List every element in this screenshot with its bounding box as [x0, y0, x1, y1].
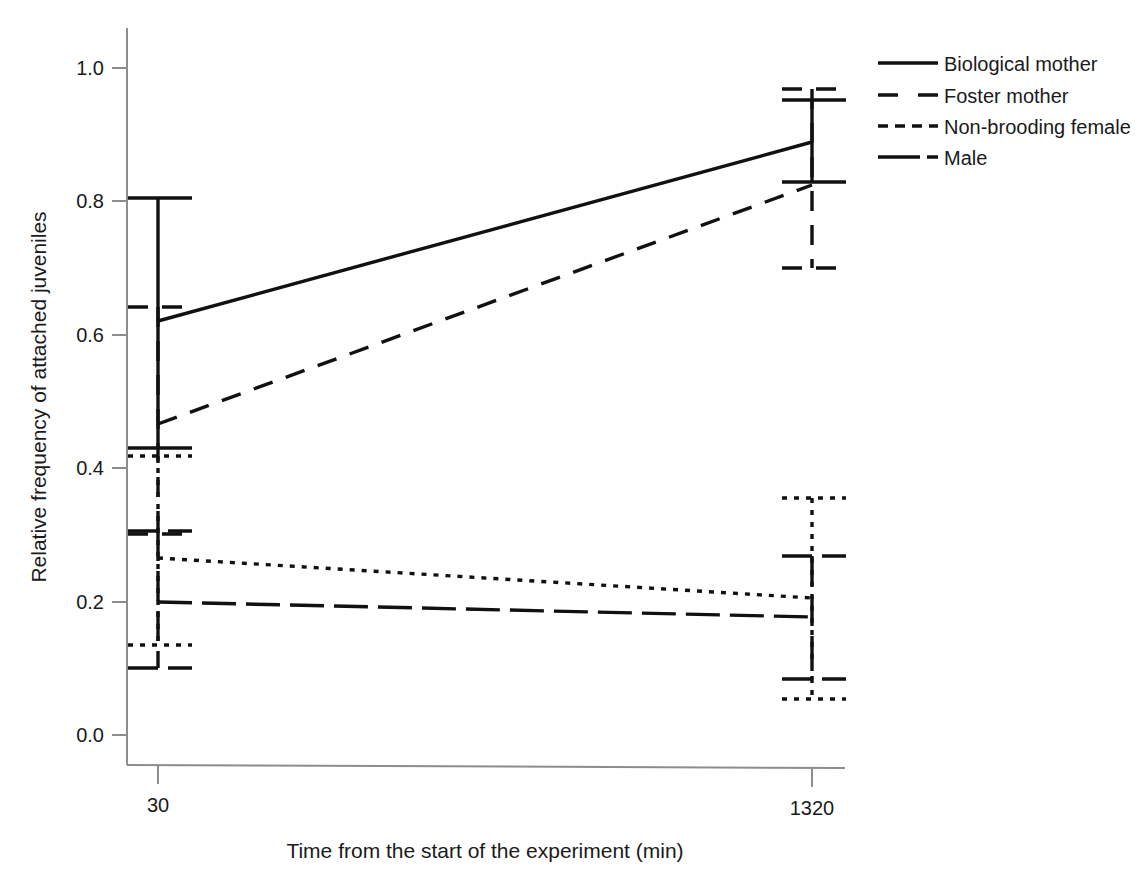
legend-entry-biological-mother: Biological mother — [878, 53, 1098, 75]
y-tick-label-0.6: 0.6 — [76, 324, 104, 346]
errorbar-biological-mother-30 — [128, 198, 192, 448]
legend-label-male: Male — [944, 147, 987, 169]
errorbar-foster-mother-30 — [128, 307, 192, 534]
series-line-foster-mother — [158, 185, 812, 424]
y-axis-ticks — [112, 68, 127, 735]
x-axis-ticks — [158, 766, 812, 787]
series-line-non-brooding-female — [158, 558, 812, 598]
x-axis-spine — [127, 765, 845, 768]
line-chart-svg: 1.0 0.8 0.6 0.4 0.2 0.0 30 1320 Time fro… — [0, 0, 1140, 877]
chart-figure: 1.0 0.8 0.6 0.4 0.2 0.0 30 1320 Time fro… — [0, 0, 1140, 877]
legend-entry-non-brooding-female: Non-brooding female — [878, 116, 1131, 138]
y-tick-label-0.8: 0.8 — [76, 190, 104, 212]
series-foster-mother — [128, 89, 846, 534]
legend-entry-male: Male — [878, 147, 987, 169]
legend-label-biological-mother: Biological mother — [944, 53, 1098, 75]
x-axis-tick-labels: 30 1320 — [147, 794, 834, 819]
y-axis-tick-labels: 1.0 0.8 0.6 0.4 0.2 0.0 — [76, 57, 104, 746]
errorbar-biological-mother-1320 — [782, 100, 846, 182]
x-tick-label-30: 30 — [147, 794, 169, 816]
chart-legend: Biological mother Foster mother Non-broo… — [878, 53, 1131, 169]
errorbar-foster-mother-1320 — [782, 89, 846, 268]
series-male — [128, 531, 846, 679]
y-axis-title: Relative frequency of attached juveniles — [27, 211, 50, 582]
y-tick-label-1.0: 1.0 — [76, 57, 104, 79]
errorbar-non-brooding-female-1320 — [782, 498, 846, 699]
y-tick-label-0.0: 0.0 — [76, 724, 104, 746]
legend-label-foster-mother: Foster mother — [944, 85, 1069, 107]
y-tick-label-0.4: 0.4 — [76, 457, 104, 479]
x-axis-title: Time from the start of the experiment (m… — [286, 839, 683, 862]
y-tick-label-0.2: 0.2 — [76, 591, 104, 613]
legend-entry-foster-mother: Foster mother — [878, 85, 1069, 107]
legend-label-non-brooding-female: Non-brooding female — [944, 116, 1131, 138]
axis-spines — [127, 28, 845, 768]
errorbar-non-brooding-female-30 — [128, 456, 192, 645]
series-line-biological-mother — [158, 142, 812, 321]
errorbar-male-30 — [128, 531, 192, 668]
series-line-male — [158, 602, 812, 617]
x-tick-label-1320: 1320 — [790, 797, 835, 819]
series-non-brooding-female — [128, 456, 846, 699]
